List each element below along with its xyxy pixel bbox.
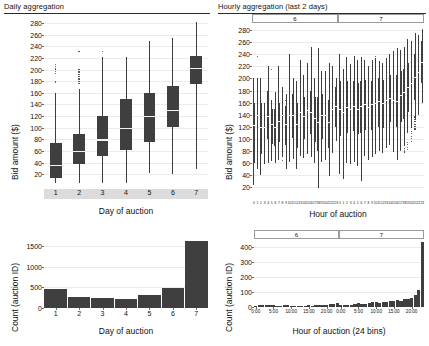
x-tick-mark <box>126 308 127 310</box>
boxplot-median <box>300 112 302 113</box>
x-tick-label: 7 <box>278 201 280 205</box>
x-tick-mark <box>376 307 377 309</box>
boxplot-median <box>314 118 316 119</box>
y-tick-mark <box>250 175 252 176</box>
boxplot-median <box>167 110 179 111</box>
y-tick-mark <box>42 58 44 59</box>
x-tick-mark <box>273 307 274 309</box>
boxplot-median <box>346 107 348 108</box>
boxplot-box <box>314 97 316 142</box>
x-tick-label: 8 <box>282 201 284 205</box>
boxplot-box <box>144 93 156 142</box>
bar <box>185 241 207 308</box>
x-tick-label: 2 <box>260 201 262 205</box>
y-tick-label: 500 <box>30 284 42 291</box>
gridline-y <box>44 267 208 268</box>
x-tick-label: 0:00 <box>336 309 345 314</box>
figure-root: Daily aggregation Bid amount ($) 2040608… <box>0 0 429 346</box>
x-tick-label: 0 <box>253 201 255 205</box>
x-tick-mark <box>291 307 292 309</box>
boxplot-median <box>335 106 337 107</box>
boxplot-box <box>393 75 395 125</box>
y-tick-mark <box>42 116 44 117</box>
x-tick-mark <box>358 307 359 309</box>
boxplot-median <box>253 125 255 126</box>
x-tick-label: 8 <box>368 201 370 205</box>
boxplot-box <box>50 143 62 178</box>
y-tick-mark <box>250 151 252 152</box>
y-tick-mark <box>42 151 44 152</box>
boxplot-outlier <box>78 81 79 82</box>
boxplot-median <box>317 122 319 123</box>
y-tick-label: 160 <box>30 89 42 96</box>
x-tick-label: 2 <box>77 310 81 317</box>
y-tick-mark <box>250 163 252 164</box>
boxplot-outlier <box>411 131 412 132</box>
x-tick-label: 1 <box>342 201 344 205</box>
y-tick-label: 280 <box>30 19 42 26</box>
gridline-y <box>254 277 424 278</box>
boxplot-outlier <box>78 71 79 72</box>
x-tick-label: 5 <box>357 201 359 205</box>
y-tick-mark <box>250 139 252 140</box>
x-tick-label: 23 <box>420 201 424 205</box>
y-tick-mark <box>42 104 44 105</box>
y-tick-label: 220 <box>30 54 42 61</box>
boxplot-outlier <box>102 51 103 52</box>
boxplot-median <box>350 109 352 110</box>
y-tick-mark <box>250 115 252 116</box>
y-tick-mark <box>252 247 254 248</box>
x-tick-mark <box>79 308 80 310</box>
boxplot-median <box>407 87 409 88</box>
boxplot-outlier <box>414 121 415 122</box>
boxplot-box <box>264 109 266 148</box>
y-tick-label: 80 <box>242 147 250 154</box>
y-tick-mark <box>250 103 252 104</box>
boxplot-median <box>271 124 273 125</box>
y-tick-label: 240 <box>30 43 42 50</box>
boxplot-outlier <box>414 128 415 129</box>
x-tick-label: 20:00 <box>321 309 333 314</box>
y-tick-mark <box>252 307 254 308</box>
boxplot-outlier <box>282 160 283 161</box>
boxplot-box <box>321 94 323 139</box>
x-tick-label: 9 <box>285 201 287 205</box>
y-tick-label: 140 <box>238 111 250 118</box>
y-tick-mark <box>250 42 252 43</box>
panel-title-daily: Daily aggregation <box>4 2 210 14</box>
boxplot-outlier <box>196 156 197 157</box>
y-tick-label: 200 <box>30 66 42 73</box>
panel-daily-aggregation: Daily aggregation Bid amount ($) 2040608… <box>0 0 214 228</box>
y-tick-label: 140 <box>30 101 42 108</box>
boxplot-median <box>357 109 359 110</box>
boxplot-median <box>310 112 312 113</box>
gridline-y <box>44 246 208 247</box>
boxplot-median <box>386 100 388 101</box>
boxplot-median <box>396 101 398 102</box>
boxplot-median <box>289 115 291 116</box>
boxplot-median <box>292 115 294 116</box>
y-tick-label: 280 <box>238 27 250 34</box>
y-tick-mark <box>42 267 44 268</box>
boxplot-box <box>285 106 287 145</box>
y-axis-label-hourly-box: Bid amount ($) <box>224 124 234 180</box>
boxplot-outlier <box>271 69 272 70</box>
x-tick-mark <box>412 307 413 309</box>
x-tick-label: 1 <box>54 189 58 196</box>
boxplot-median <box>307 110 309 111</box>
boxplot-median <box>328 122 330 123</box>
x-tick-label: 3 <box>101 310 105 317</box>
boxplot-outlier <box>411 141 412 142</box>
x-tick-label: 4 <box>267 201 269 205</box>
x-tick-label: 4 <box>124 310 128 317</box>
y-tick-label: 160 <box>238 99 250 106</box>
gridline-y <box>44 46 208 47</box>
boxplot-box <box>73 134 85 164</box>
y-tick-label: 300 <box>240 258 252 265</box>
x-tick-label: 3 <box>350 201 352 205</box>
x-tick-label: 4 <box>124 189 128 196</box>
y-tick-label: 240 <box>238 51 250 58</box>
x-tick-label: 20:00 <box>406 309 418 314</box>
bar <box>44 289 66 308</box>
boxplot-median <box>418 72 420 73</box>
